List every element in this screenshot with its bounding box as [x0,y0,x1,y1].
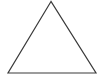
diagram-canvas [0,0,102,79]
triangle-diagram [0,0,102,79]
triangle-shape [8,2,96,74]
